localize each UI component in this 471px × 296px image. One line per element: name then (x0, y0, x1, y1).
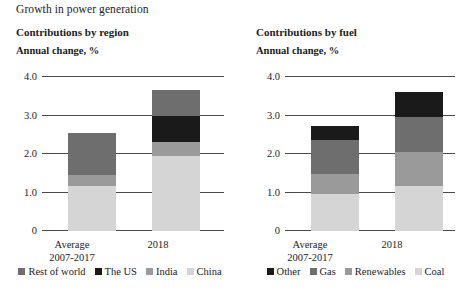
bar-segment[interactable] (311, 140, 359, 174)
y-axis-tick-label: 2.0 (24, 148, 37, 159)
y-axis-tick-label: 4.0 (267, 71, 280, 82)
legend-item[interactable]: China (187, 266, 222, 277)
y-axis-tick-label: 2.0 (267, 148, 280, 159)
bar-average[interactable] (68, 133, 116, 231)
legend-label: Gas (320, 266, 336, 277)
legend-by-region: Rest of worldThe USIndiaChina (0, 266, 240, 277)
y-axis-tick-label: 0 (32, 225, 37, 236)
legend-item[interactable]: Rest of world (18, 266, 85, 277)
bar-segment[interactable] (395, 186, 443, 231)
x-label-line1: 2018 (110, 238, 206, 251)
bar-segment[interactable] (395, 117, 443, 152)
panel-subheading: Annual change, % (256, 45, 339, 56)
bar-average[interactable] (311, 126, 359, 231)
legend-swatch-icon (415, 268, 422, 275)
bar-segment[interactable] (152, 156, 200, 231)
legend-swatch-icon (345, 268, 352, 275)
legend-item[interactable]: India (146, 266, 178, 277)
x-label-line2: 2007-2017 (262, 251, 358, 264)
gridline: 4.0 (42, 76, 224, 77)
panel-by-fuel: Contributions by fuel Annual change, % 0… (240, 0, 471, 296)
legend-swatch-icon (267, 268, 274, 275)
plot-area-by-region: 01.02.03.04.0 (42, 77, 224, 231)
x-label-line1: Average (24, 238, 120, 251)
legend-label: Other (277, 266, 301, 277)
x-axis-label-2018: 2018 (344, 238, 440, 251)
figure: Growth in power generation Contributions… (0, 0, 471, 296)
legend-item[interactable]: Coal (415, 266, 445, 277)
bar-segment[interactable] (68, 175, 116, 186)
bar-segment[interactable] (152, 90, 200, 115)
legend-item[interactable]: Gas (310, 266, 336, 277)
bar-current[interactable] (152, 90, 200, 231)
bar-segment[interactable] (68, 133, 116, 175)
y-axis-tick-label: 3.0 (267, 109, 280, 120)
legend-label: Rest of world (28, 266, 85, 277)
y-axis-tick-label: 0 (275, 225, 280, 236)
y-axis-tick-label: 4.0 (24, 71, 37, 82)
bar-segment[interactable] (152, 142, 200, 155)
legend-item[interactable]: The US (95, 266, 137, 277)
bar-segment[interactable] (311, 174, 359, 194)
legend-label: India (156, 266, 178, 277)
legend-item[interactable]: Renewables (345, 266, 406, 277)
panel-heading: Contributions by region (16, 26, 129, 38)
legend-swatch-icon (95, 268, 102, 275)
bar-segment[interactable] (395, 152, 443, 186)
panel-subheading: Annual change, % (16, 45, 99, 56)
y-axis-tick-label: 1.0 (267, 186, 280, 197)
x-axis-label-2018: 2018 (110, 238, 206, 251)
x-label-line2: 2007-2017 (24, 251, 120, 264)
legend-label: The US (105, 266, 137, 277)
panel-heading: Contributions by fuel (256, 26, 357, 38)
legend-label: Coal (425, 266, 445, 277)
y-axis-tick-label: 3.0 (24, 109, 37, 120)
y-axis-tick-label: 1.0 (24, 186, 37, 197)
plot-area-by-fuel: 01.02.03.04.0 (285, 77, 455, 231)
bar-current[interactable] (395, 92, 443, 231)
legend-swatch-icon (18, 268, 25, 275)
bar-segment[interactable] (68, 186, 116, 231)
bar-segment[interactable] (311, 126, 359, 140)
x-label-line1: 2018 (344, 238, 440, 251)
bar-segment[interactable] (152, 116, 200, 143)
bar-segment[interactable] (395, 92, 443, 117)
legend-label: China (197, 266, 222, 277)
legend-label: Renewables (355, 266, 406, 277)
legend-swatch-icon (146, 268, 153, 275)
legend-by-fuel: OtherGasRenewablesCoal (240, 266, 471, 277)
gridline: 4.0 (285, 76, 455, 77)
legend-swatch-icon (310, 268, 317, 275)
legend-swatch-icon (187, 268, 194, 275)
legend-item[interactable]: Other (267, 266, 301, 277)
bar-segment[interactable] (311, 194, 359, 231)
x-axis-label-average: Average 2007-2017 (24, 238, 120, 264)
panel-by-region: Contributions by region Annual change, %… (0, 0, 240, 296)
